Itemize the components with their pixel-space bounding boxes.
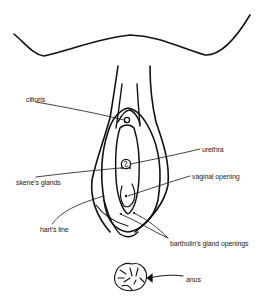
label-urethra: urethra (202, 146, 223, 153)
label-anus: anus (186, 276, 201, 283)
hip-outline (14, 15, 250, 56)
label-vaginal-opening: vaginal opening (192, 173, 240, 180)
outer-right-line (135, 66, 168, 232)
label-clitoris: clitoris (26, 96, 45, 103)
leader-anus (148, 275, 183, 278)
label-harts-line: hart's line (40, 226, 69, 233)
labia-minora (116, 125, 140, 214)
label-skenes-glands: skene's glands (16, 179, 61, 186)
leader-skenes (36, 168, 121, 177)
vaginal-opening-shape (121, 184, 135, 207)
label-bartholins-gland-openings: bartholin's gland openings (170, 240, 249, 247)
diagram-lines (0, 0, 270, 308)
anus-shape (115, 263, 147, 290)
anatomy-diagram: clitoris urethra skene's glands vaginal … (0, 0, 270, 308)
